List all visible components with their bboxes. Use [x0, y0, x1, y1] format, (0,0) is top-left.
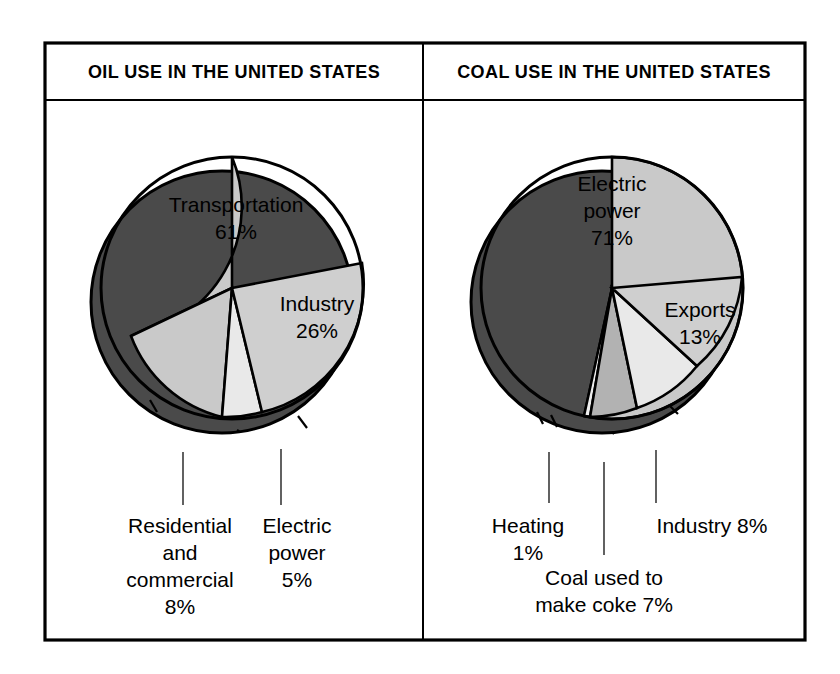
coal-callout-coke-line1: Coal used to [545, 566, 663, 589]
oil-callout-electric-power-line2: power [268, 541, 325, 564]
coal-label-exports-name: Exports [664, 298, 735, 321]
coal-label-electric-power-line3: 71% [591, 226, 633, 249]
oil-callout-residential-line4: 8% [165, 595, 195, 618]
figure-root: OIL USE IN THE UNITED STATES COAL USE IN… [0, 0, 840, 674]
oil-label-industry-name: Industry [280, 292, 355, 315]
oil-callout-residential-line2: and [162, 541, 197, 564]
oil-label-transportation-value: 61% [215, 220, 257, 243]
oil-label-transportation-name: Transportation [169, 193, 304, 216]
coal-callout-heating-line2: 1% [513, 541, 543, 564]
oil-callout-residential-line1: Residential [128, 514, 232, 537]
coal-panel-title: COAL USE IN THE UNITED STATES [457, 62, 771, 82]
oil-callout-electric-power-line1: Electric [263, 514, 332, 537]
oil-label-industry-value: 26% [296, 319, 338, 342]
oil-callout-electric-power-line3: 5% [282, 568, 312, 591]
two-pie-chart-figure: OIL USE IN THE UNITED STATES COAL USE IN… [0, 0, 840, 674]
coal-rim-divider-3 [612, 432, 614, 434]
oil-panel-title: OIL USE IN THE UNITED STATES [88, 62, 380, 82]
coal-label-electric-power-line2: power [583, 199, 640, 222]
coal-label-electric-power-line1: Electric [578, 172, 647, 195]
coal-callout-heating-line1: Heating [492, 514, 564, 537]
oil-callout-residential-line3: commercial [126, 568, 233, 591]
coal-callout-coke-line2: make coke 7% [535, 593, 673, 616]
coal-label-exports-value: 13% [679, 325, 721, 348]
coal-callout-industry-line1: Industry 8% [657, 514, 768, 537]
